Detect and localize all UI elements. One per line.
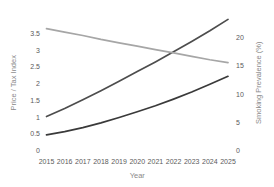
y-axis-right-title: Smoking Prevalence (%) (254, 41, 262, 124)
x-axis-tick-label: 2016 (57, 158, 73, 165)
y-axis-left-tick-label: 2 (18, 80, 40, 87)
x-axis-tick-label: 2017 (75, 158, 91, 165)
x-axis-tick-label: 2024 (202, 158, 218, 165)
x-axis-tick-label: 2025 (220, 158, 236, 165)
y-axis-left-tick-label: 1.5 (18, 96, 40, 103)
series-group (47, 19, 229, 135)
x-axis-tick-label: 2022 (166, 158, 182, 165)
y-axis-right-tick-label: 20 (236, 34, 256, 41)
series-line-1 (47, 76, 229, 135)
y-axis-left-tick-label: 0 (18, 147, 40, 154)
y-axis-left-tick-label: 0.5 (18, 130, 40, 137)
y-axis-right-tick-label: 0 (236, 147, 256, 154)
series-line-2 (47, 29, 229, 63)
x-axis-title: Year (130, 172, 145, 180)
chart-container: 00.511.522.533.5 05101520 20152016201720… (0, 0, 274, 187)
x-axis-tick-label: 2021 (148, 158, 164, 165)
y-axis-left-tick-label: 1 (18, 113, 40, 120)
y-axis-left-tick-label: 2.5 (18, 63, 40, 70)
x-axis-tick-label: 2023 (184, 158, 200, 165)
y-axis-left-title: Price / Tax Index (9, 55, 17, 110)
x-axis-tick-label: 2018 (93, 158, 109, 165)
x-axis-tick-label: 2020 (129, 158, 145, 165)
y-axis-left-tick-label: 3.5 (18, 29, 40, 36)
x-axis-tick-label: 2015 (39, 158, 55, 165)
y-axis-left-tick-label: 3 (18, 46, 40, 53)
x-axis-tick-label: 2019 (111, 158, 127, 165)
